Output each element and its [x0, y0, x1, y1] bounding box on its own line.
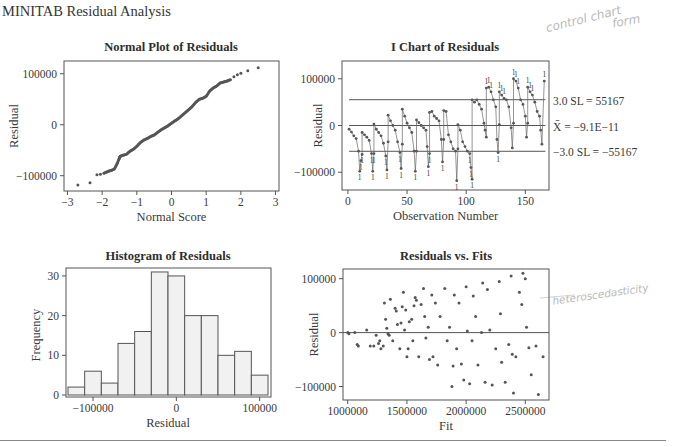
data-point — [452, 365, 455, 368]
data-point — [443, 287, 446, 290]
data-point — [415, 299, 418, 302]
data-point — [499, 312, 502, 315]
data-point — [401, 305, 404, 308]
y-tick-label: 0 — [330, 327, 336, 339]
data-point — [511, 353, 514, 356]
data-point — [453, 293, 456, 296]
data-point — [466, 329, 469, 332]
data-point — [369, 345, 372, 348]
x-tick-label: 1500000 — [387, 405, 428, 417]
y-tick-label: −100000 — [295, 381, 336, 393]
data-point — [537, 393, 540, 396]
data-point — [403, 328, 406, 331]
data-point — [446, 339, 449, 342]
data-point — [423, 315, 426, 318]
data-point — [524, 277, 527, 280]
data-point — [498, 280, 501, 283]
data-point — [436, 363, 439, 366]
data-point — [431, 355, 434, 358]
data-point — [494, 347, 497, 350]
data-point — [377, 342, 380, 345]
data-point — [400, 321, 403, 324]
data-point — [357, 345, 360, 348]
data-point — [542, 355, 545, 358]
x-tick-label: 1000000 — [328, 405, 369, 417]
data-point — [427, 326, 430, 329]
data-point — [439, 315, 442, 318]
data-point — [474, 315, 477, 318]
data-point — [521, 272, 524, 275]
data-point — [520, 303, 523, 306]
data-point — [388, 334, 391, 337]
data-point — [424, 337, 427, 340]
data-point — [395, 310, 398, 313]
data-point — [455, 347, 458, 350]
data-point — [404, 308, 407, 311]
data-point — [510, 275, 513, 278]
data-point — [465, 285, 468, 288]
data-point — [405, 355, 408, 358]
data-point — [398, 347, 401, 350]
data-point — [527, 346, 530, 349]
data-point — [486, 288, 489, 291]
data-point — [420, 303, 423, 306]
data-point — [372, 345, 375, 348]
data-point — [450, 385, 453, 388]
data-point — [462, 379, 465, 382]
data-point — [530, 373, 533, 376]
data-point — [384, 318, 387, 321]
data-point — [394, 307, 397, 310]
data-point — [385, 327, 388, 330]
data-point — [411, 339, 414, 342]
bottom-divider — [0, 440, 666, 441]
data-point — [534, 345, 537, 348]
data-point — [413, 304, 416, 307]
residuals-vs-fits-panel: Residuals vs. Fits −10000001000001000000… — [0, 0, 673, 440]
x-tick-label: 2500000 — [505, 405, 546, 417]
data-point — [480, 331, 483, 334]
data-point — [407, 347, 410, 350]
residuals-vs-fits-chart: −100000010000010000001500000200000025000… — [0, 0, 673, 440]
data-point — [448, 326, 451, 329]
x-tick-label: 2000000 — [446, 405, 487, 417]
data-point — [396, 323, 399, 326]
data-point — [504, 381, 507, 384]
data-point — [378, 339, 381, 342]
data-point — [525, 326, 528, 329]
data-point — [481, 282, 484, 285]
data-point — [379, 347, 382, 350]
y-tick-label: 100000 — [302, 273, 337, 285]
data-point — [347, 332, 350, 335]
data-point — [514, 355, 517, 358]
data-point — [518, 291, 521, 294]
data-point — [408, 320, 411, 323]
x-axis-label: Fit — [439, 419, 453, 433]
data-point — [460, 362, 463, 365]
data-point — [422, 287, 425, 290]
data-point — [417, 355, 420, 358]
data-point — [430, 293, 433, 296]
data-point — [476, 363, 479, 366]
data-point — [428, 358, 431, 361]
data-point — [491, 383, 494, 386]
data-point — [375, 334, 378, 337]
data-point — [500, 361, 503, 364]
data-point — [472, 294, 475, 297]
data-point — [410, 318, 413, 321]
data-point — [365, 328, 368, 331]
data-point — [434, 301, 437, 304]
data-point — [484, 381, 487, 384]
data-point — [389, 298, 392, 301]
data-point — [458, 301, 461, 304]
data-point — [468, 382, 471, 385]
data-point — [382, 345, 385, 348]
data-point — [414, 296, 417, 299]
data-point — [488, 328, 491, 331]
data-point — [512, 391, 515, 394]
y-axis-label: Residual — [307, 312, 321, 356]
data-point — [471, 339, 474, 342]
data-point — [383, 301, 386, 304]
data-point — [353, 331, 356, 334]
data-point — [391, 339, 394, 342]
data-point — [507, 343, 510, 346]
